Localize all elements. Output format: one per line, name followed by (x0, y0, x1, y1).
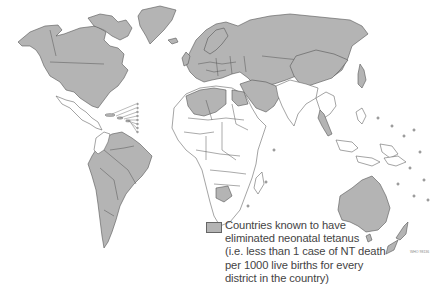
region-greenland (138, 6, 176, 44)
source-credit: WHO 98136 (410, 250, 429, 254)
legend-line-3: (i.e. less than 1 case of NT death (225, 245, 425, 258)
legend-line-1: Countries known to have (225, 219, 425, 232)
legend-swatch-eliminated (206, 222, 222, 233)
region-iceland (168, 38, 178, 44)
region-north-america (18, 25, 128, 108)
legend-text: Countries known to have eliminated neona… (225, 219, 425, 285)
region-png (384, 156, 406, 166)
legend-line-5: district in the country) (225, 272, 425, 285)
region-japan (358, 64, 366, 88)
region-south-asia (276, 80, 318, 126)
region-madagascar (254, 172, 264, 194)
caribbean-islands (105, 103, 138, 133)
legend-line-4: per 1000 live births for every (225, 259, 425, 272)
region-philippines (356, 108, 366, 124)
legend-line-2: eliminated neonatal tetanus (225, 232, 425, 245)
